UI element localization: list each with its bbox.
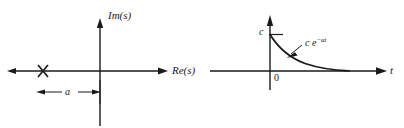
real-axis — [7, 68, 168, 75]
time-axis-label: t — [390, 65, 393, 76]
real-axis-left-arrowhead — [7, 68, 16, 74]
amplitude-axis-arrowhead — [267, 15, 273, 26]
distance-a-label: a — [65, 87, 70, 97]
imaginary-axis-arrowhead — [97, 18, 103, 28]
exponential-annotation-base: c e — [305, 37, 316, 48]
exponential-curve-annotation: c e−at — [305, 38, 327, 48]
figure-canvas: Im(s) Re(s) a c c e−at 0 t — [0, 0, 404, 128]
amplitude-c-label: c — [259, 27, 263, 37]
imaginary-axis-label: Im(s) — [108, 10, 131, 21]
real-axis-right-arrowhead — [158, 68, 168, 75]
exponential-annotation-exponent: −at — [316, 36, 326, 44]
amplitude-axis — [267, 15, 273, 90]
time-axis — [210, 67, 387, 74]
imaginary-axis — [97, 18, 103, 126]
real-axis-label: Re(s) — [172, 65, 195, 76]
time-axis-arrowhead — [376, 67, 387, 74]
distance-a-left-arrowhead — [36, 89, 45, 94]
figure-vector-graphics — [0, 0, 404, 128]
origin-label: 0 — [274, 73, 279, 83]
